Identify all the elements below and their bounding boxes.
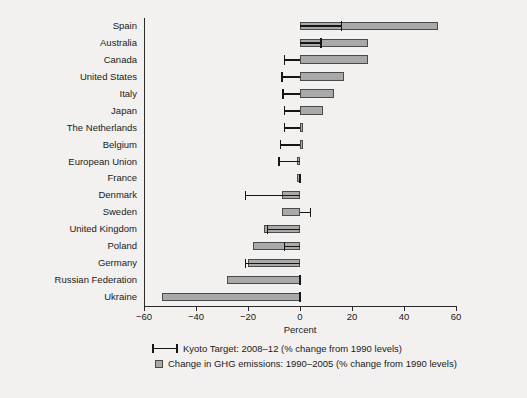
bar-swatch-icon xyxy=(155,360,163,368)
kyoto-target-cap xyxy=(341,21,343,30)
category-label: Italy xyxy=(120,86,144,103)
kyoto-target-line xyxy=(245,263,300,265)
legend-item-kyoto-target: Kyoto Target: 2008–12 (% change from 199… xyxy=(152,341,512,356)
ghg-change-bar xyxy=(300,106,323,114)
x-axis-title: Percent xyxy=(144,324,456,335)
category-label: Spain xyxy=(113,18,144,35)
kyoto-target-cap xyxy=(299,174,301,183)
category-label: Poland xyxy=(107,238,144,255)
chart-row: Sweden xyxy=(144,204,456,221)
legend-label-kyoto-target: Kyoto Target: 2008–12 (% change from 199… xyxy=(183,343,402,354)
category-label: The Netherlands xyxy=(67,120,144,137)
kyoto-target-line xyxy=(268,229,301,231)
chart-row: Russian Federation xyxy=(144,272,456,289)
kyoto-target-cap xyxy=(284,106,286,115)
kyoto-target-cap xyxy=(284,55,286,64)
chart-row: The Netherlands xyxy=(144,120,456,137)
range-marker-icon xyxy=(152,344,178,354)
ghg-change-bar xyxy=(282,208,300,216)
x-axis-tick-label: 0 xyxy=(297,311,302,322)
kyoto-target-cap xyxy=(245,191,247,200)
category-label: France xyxy=(107,170,144,187)
chart-row: Australia xyxy=(144,35,456,52)
category-label: Canada xyxy=(104,52,144,69)
chart-row: European Union xyxy=(144,154,456,171)
kyoto-target-cap xyxy=(280,140,282,149)
chart-row: Poland xyxy=(144,238,456,255)
kyoto-target-line xyxy=(279,161,300,163)
chart-row: Spain xyxy=(144,18,456,35)
kyoto-target-cap xyxy=(245,259,247,268)
ghg-change-bar xyxy=(300,140,303,148)
kyoto-target-cap xyxy=(267,225,269,234)
kyoto-target-line xyxy=(281,144,301,146)
category-label: European Union xyxy=(68,154,144,171)
kyoto-target-cap xyxy=(282,89,284,98)
ghg-change-bar xyxy=(300,89,334,97)
kyoto-target-line xyxy=(300,25,342,27)
kyoto-target-line xyxy=(283,93,300,95)
chart-row: United Kingdom xyxy=(144,221,456,238)
chart-legend: Kyoto Target: 2008–12 (% change from 199… xyxy=(152,341,512,371)
category-label: Denmark xyxy=(98,187,144,204)
kyoto-target-cap xyxy=(278,157,280,166)
ghg-change-bar xyxy=(300,72,344,80)
x-axis-tick-label: −40 xyxy=(188,311,204,322)
kyoto-target-cap xyxy=(299,275,301,284)
chart-row: United States xyxy=(144,69,456,86)
ghg-change-bar xyxy=(300,123,303,131)
kyoto-target-line xyxy=(245,195,300,197)
kyoto-target-line xyxy=(284,127,300,129)
ghg-change-bar xyxy=(227,276,300,284)
chart-row: Ukraine xyxy=(144,289,456,306)
kyoto-target-line xyxy=(282,76,300,78)
kyoto-target-line xyxy=(284,59,300,61)
category-label: United States xyxy=(80,69,144,86)
category-label: Germany xyxy=(98,255,144,272)
category-label: Ukraine xyxy=(104,289,144,306)
x-axis-tick-label: 40 xyxy=(399,311,410,322)
legend-item-ghg-change: Change in GHG emissions: 1990–2005 (% ch… xyxy=(152,356,512,371)
chart-row: France xyxy=(144,170,456,187)
legend-label-ghg-change: Change in GHG emissions: 1990–2005 (% ch… xyxy=(168,358,457,369)
plot-area: SpainAustraliaCanadaUnited StatesItalyJa… xyxy=(144,18,456,306)
category-label: Sweden xyxy=(103,204,144,221)
ghg-change-bar xyxy=(162,293,300,301)
kyoto-target-cap xyxy=(310,208,312,217)
kyoto-target-line xyxy=(300,42,321,44)
category-label: United Kingdom xyxy=(69,221,144,238)
x-axis-tick-label: 20 xyxy=(347,311,358,322)
kyoto-target-cap xyxy=(299,292,301,301)
kyoto-target-cap xyxy=(320,38,322,47)
kyoto-target-line xyxy=(284,110,300,112)
chart-row: Japan xyxy=(144,103,456,120)
category-label: Belgium xyxy=(103,137,144,154)
x-axis-tick-label: 60 xyxy=(451,311,462,322)
kyoto-target-cap xyxy=(284,123,286,132)
ghg-emissions-chart-figure: SpainAustraliaCanadaUnited StatesItalyJa… xyxy=(0,0,527,398)
category-label: Australia xyxy=(100,35,144,52)
kyoto-target-cap xyxy=(281,72,283,81)
chart-row: Italy xyxy=(144,86,456,103)
kyoto-target-cap xyxy=(284,242,286,251)
category-label: Japan xyxy=(111,103,144,120)
chart-row: Belgium xyxy=(144,137,456,154)
chart-row: Denmark xyxy=(144,187,456,204)
kyoto-target-line xyxy=(284,246,300,248)
x-axis-tick-label: −60 xyxy=(136,311,152,322)
category-label: Russian Federation xyxy=(55,272,144,289)
x-axis-tick-label: −20 xyxy=(240,311,256,322)
ghg-change-bar xyxy=(300,55,368,63)
zero-axis-line xyxy=(144,18,145,306)
chart-row: Germany xyxy=(144,255,456,272)
chart-row: Canada xyxy=(144,52,456,69)
